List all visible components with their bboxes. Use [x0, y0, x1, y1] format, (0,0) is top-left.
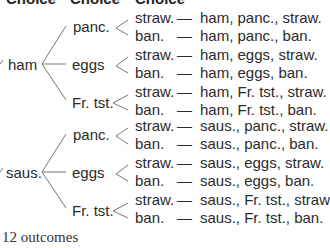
dash: —	[177, 84, 192, 100]
outcome: ham, eggs, ban.	[200, 65, 308, 81]
dash: —	[177, 65, 192, 81]
leaf-label: straw.	[135, 47, 174, 63]
outcome: saus., Fr. tst., ban.	[200, 210, 323, 226]
dash: —	[177, 102, 192, 118]
outcome: saus., Fr. tst., straw	[200, 192, 330, 208]
outcome: ham, Fr. tst., ban.	[200, 102, 317, 118]
outcomes-count: 12 outcomes	[2, 229, 78, 246]
dash: —	[177, 173, 192, 189]
leaf-label: straw.	[135, 10, 174, 26]
leaf-label: ban.	[135, 102, 164, 118]
header-choice-2: Choice	[70, 0, 120, 7]
node-ham-eggs: eggs	[72, 57, 105, 73]
header-choice-1: Choice	[6, 0, 56, 7]
node-saus-eggs: eggs	[72, 165, 105, 181]
node-saus: saus.	[6, 165, 42, 181]
node-ham: ham	[8, 57, 37, 73]
leaf-label: straw.	[135, 118, 174, 134]
outcome: ham, eggs, straw.	[200, 47, 318, 63]
node-ham-frtst: Fr. tst.	[72, 95, 114, 111]
dash: —	[177, 10, 192, 26]
dash: —	[177, 28, 192, 44]
dash: —	[177, 136, 192, 152]
leaf-label: ban.	[135, 28, 164, 44]
dash: —	[177, 118, 192, 134]
outcome: saus., panc., ban.	[200, 136, 318, 152]
outcome: saus., eggs, straw.	[200, 155, 324, 171]
leaf-label: straw.	[135, 155, 174, 171]
leaf-label: ban.	[135, 136, 164, 152]
leaf-label: ban.	[135, 173, 164, 189]
outcome: ham, Fr. tst., straw.	[200, 84, 327, 100]
node-ham-panc: panc.	[73, 19, 110, 35]
dash: —	[177, 192, 192, 208]
leaf-label: ban.	[135, 210, 164, 226]
dash: —	[177, 47, 192, 63]
outcome: ham, panc., ban.	[200, 28, 312, 44]
dash: —	[177, 210, 192, 226]
leaf-label: straw.	[135, 192, 174, 208]
node-saus-panc: panc.	[73, 127, 110, 143]
outcome: saus., panc., straw.	[200, 118, 328, 134]
outcome: ham, panc., straw.	[200, 10, 322, 26]
node-saus-frtst: Fr. tst.	[72, 203, 114, 219]
leaf-label: straw.	[135, 84, 174, 100]
outcome: saus., eggs, ban.	[200, 173, 314, 189]
leaf-label: ban.	[135, 65, 164, 81]
dash: —	[177, 155, 192, 171]
header-choice-3: Choice	[135, 0, 185, 7]
